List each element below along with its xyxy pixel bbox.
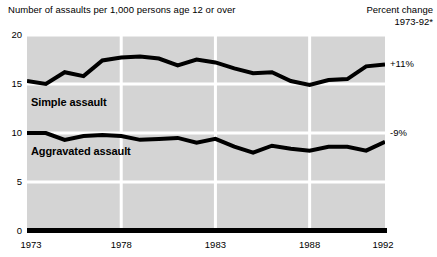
y-tick-5: 5	[0, 177, 22, 187]
y-tick-10: 10	[0, 128, 22, 138]
plot-canvas	[27, 35, 385, 231]
chart-title: Number of assaults per 1,000 persons age…	[8, 4, 236, 16]
percent-change-header-line1: Percent change	[366, 4, 433, 16]
x-tick-1973: 1973	[11, 240, 51, 250]
assault-rate-line-chart: Number of assaults per 1,000 persons age…	[0, 0, 437, 257]
x-tick-1992: 1992	[363, 240, 403, 250]
x-tick-1978: 1978	[101, 240, 141, 250]
gridlines	[27, 35, 385, 231]
x-tick-1983: 1983	[195, 240, 235, 250]
y-tick-0: 0	[0, 226, 22, 236]
percent-change-header-line2: 1973-92*	[366, 16, 433, 28]
x-tick-1988: 1988	[290, 240, 330, 250]
series-label-simple-assault: Simple assault	[31, 96, 107, 108]
x-axis-baseline	[27, 228, 387, 233]
plot-area	[27, 35, 385, 231]
percent-change-header: Percent change 1973-92*	[366, 4, 433, 28]
percent-change-aggravated-assault: -9%	[390, 128, 407, 138]
y-tick-15: 15	[0, 79, 22, 89]
series-line-simple-assault	[27, 57, 385, 85]
y-tick-20: 20	[0, 30, 22, 40]
percent-change-simple-assault: +11%	[390, 59, 414, 69]
series-label-aggravated-assault: Aggravated assault	[31, 145, 131, 157]
